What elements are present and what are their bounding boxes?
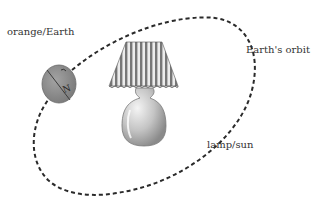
earth-label: orange/Earth — [7, 26, 74, 37]
lamp-sun-icon — [109, 42, 178, 146]
sun-label: lamp/sun — [207, 139, 253, 150]
earth-orange-icon: N — [42, 65, 76, 103]
orbit-label: Earth's orbit — [246, 44, 310, 55]
diagram-canvas: N orange/Earth Earth's orbit lamp/sun — [0, 0, 317, 213]
